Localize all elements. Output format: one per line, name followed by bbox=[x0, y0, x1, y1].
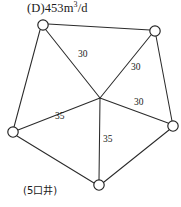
node-right-well[interactable] bbox=[168, 121, 178, 131]
figure-title: (D)453m3/d(D)453m3/d bbox=[27, 2, 88, 15]
edge-label-center-left: 35 bbox=[55, 112, 65, 122]
node-top-right-well[interactable] bbox=[150, 26, 160, 36]
edge-label-center-right: 30 bbox=[134, 98, 144, 108]
well-nodes bbox=[8, 20, 178, 190]
perimeter-edges bbox=[14, 24, 172, 183]
edge-label-center-top-right: 30 bbox=[131, 63, 141, 73]
edge-top-left-to-top-right bbox=[48, 24, 150, 30]
edge-left-to-top-left bbox=[14, 30, 40, 127]
edge-right-to-bottom bbox=[104, 130, 169, 182]
network-diagram-svg bbox=[0, 0, 181, 207]
well-network-figure: (D)453m3/d(D)453m3/d (5口井) 30 30 30 35 3… bbox=[0, 0, 181, 207]
spoke-center-to-top-left bbox=[46, 30, 100, 98]
title-text-suffix: /d bbox=[78, 1, 88, 15]
spoke-center-to-bottom bbox=[99, 98, 100, 180]
title-text-prefix: (D)453m bbox=[27, 1, 74, 15]
edge-top-right-to-right bbox=[156, 36, 172, 121]
figure-caption: (5口井) bbox=[23, 186, 57, 196]
node-bottom-well[interactable] bbox=[94, 180, 104, 190]
edge-label-center-bottom: 35 bbox=[103, 135, 113, 145]
node-left-well[interactable] bbox=[8, 127, 18, 137]
node-top-left-well[interactable] bbox=[38, 20, 48, 30]
spoke-edges bbox=[18, 30, 168, 180]
edge-bottom-to-left bbox=[17, 136, 94, 183]
spoke-center-to-top-right bbox=[100, 35, 151, 98]
edge-label-center-top-left: 30 bbox=[78, 50, 88, 60]
